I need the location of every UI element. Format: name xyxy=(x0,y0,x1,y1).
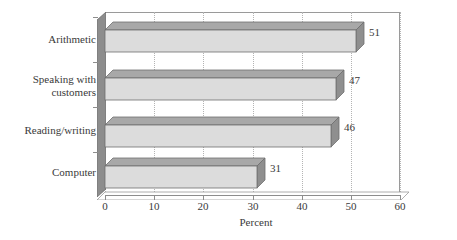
x-axis-title: Percent xyxy=(0,216,457,228)
category-label-reading-writing-line1: Reading/writing xyxy=(4,124,96,137)
category-label-arithmetic: Arithmetic xyxy=(4,33,96,46)
category-label-speaking-with-customers-line2: customers xyxy=(4,86,96,99)
bar-reading-writing[interactable] xyxy=(105,117,342,149)
y-axis-tick-1 xyxy=(93,62,98,63)
bar-value-computer: 31 xyxy=(270,162,281,175)
chart-screenshot: 51 47 46 31 Arithmetic Speaking with cus… xyxy=(0,0,457,240)
y-axis-tick-2 xyxy=(93,107,98,108)
gridline-60 xyxy=(400,12,401,196)
x-axis-tick-label-50: 50 xyxy=(331,200,371,213)
category-label-computer-line1: Computer xyxy=(4,166,96,179)
x-axis-tick-label-40: 40 xyxy=(282,200,322,213)
bar-speaking-with-customers[interactable] xyxy=(105,70,347,102)
x-axis-tick-label-0: 0 xyxy=(85,200,125,213)
x-axis-tick-label-10: 10 xyxy=(134,200,174,213)
y-axis-tick-0 xyxy=(93,17,98,18)
category-label-computer: Computer xyxy=(4,166,96,179)
category-label-speaking-with-customers-line1: Speaking with xyxy=(4,73,96,86)
x-axis-tick-label-60: 60 xyxy=(380,200,420,213)
category-label-arithmetic-line1: Arithmetic xyxy=(4,33,96,46)
x-axis-tick-label-30: 30 xyxy=(233,200,273,213)
category-label-speaking-with-customers: Speaking with customers xyxy=(4,73,96,98)
category-label-reading-writing: Reading/writing xyxy=(4,124,96,137)
x-axis-title-text: Percent xyxy=(185,216,273,228)
x-axis-tick-label-20: 20 xyxy=(183,200,223,213)
bar-value-arithmetic: 51 xyxy=(369,26,380,39)
y-axis-tick-3 xyxy=(93,152,98,153)
bar-value-reading-writing: 46 xyxy=(344,121,355,134)
bar-arithmetic[interactable] xyxy=(105,22,367,54)
bar-value-speaking-with-customers: 47 xyxy=(349,74,360,87)
bar-computer[interactable] xyxy=(105,158,268,190)
